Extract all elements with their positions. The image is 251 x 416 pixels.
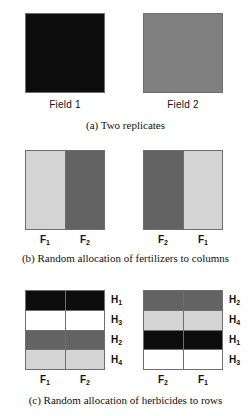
panel-c-field-2-row-1 [144, 291, 222, 310]
panel-b-field-2-col-2-label: F1 [183, 235, 223, 245]
panel-c-field-2-row-3 [144, 330, 222, 350]
grid-cell [144, 350, 183, 369]
panel-c-field-1-row-1-label: H1 [111, 290, 137, 310]
panel-c-field-1-row-3 [26, 330, 104, 350]
panel-c-field-2-row-4-label: H3 [229, 350, 251, 370]
grid-cell [65, 350, 105, 369]
panel-b-caption: (b) Random allocation of fertilizers to … [0, 252, 251, 264]
herbicide-letter: H [111, 315, 118, 325]
grid-cell [26, 350, 65, 369]
panel-c-caption: (c) Random allocation of herbicides to r… [0, 394, 251, 406]
herbicide-letter: H [229, 335, 236, 345]
panel-c-field-2-col-labels: F2 F1 [143, 375, 223, 385]
herbicide-letter: H [111, 335, 118, 345]
figure-randomization-diagram: Field 1 Field 2 (a) Two replicates F1 [0, 0, 251, 416]
panel-b-field-2-col-labels: F2 F1 [143, 235, 223, 245]
panel-a-field-2-plot [143, 13, 223, 93]
panel-c-field-1-row-4 [26, 349, 104, 369]
panel-c-field-2-row-2-label: H4 [229, 310, 251, 330]
panel-b-field-1-plot [25, 150, 105, 230]
herbicide-letter: H [229, 355, 236, 365]
grid-cell [26, 311, 65, 330]
fertilizer-subscript: 2 [86, 239, 90, 246]
panel-b-field-1-col-1 [26, 151, 65, 229]
fertilizer-subscript: 1 [46, 239, 50, 246]
panel-c-field-2-wrap: H2 H4 H1 H3 F2 [143, 290, 223, 385]
panel-b-field-2-wrap: F2 F1 [143, 150, 223, 245]
panel-c-herbicide-allocation: H1 H3 H2 H4 F1 [0, 290, 251, 406]
grid-cell [144, 291, 183, 310]
panel-c-field-1-row-4-label: H4 [111, 350, 137, 370]
panel-a-field-2-label: Field 2 [143, 99, 223, 110]
grid-cell [183, 350, 223, 369]
fertilizer-subscript: 1 [204, 239, 208, 246]
panel-c-field-1-row-2-label: H3 [111, 310, 137, 330]
panel-b-fertilizer-allocation: F1 F2 F2 F1 [0, 150, 251, 264]
panel-b-field-1-col-2-label: F2 [65, 235, 105, 245]
panel-b-field-2-col-1 [144, 151, 183, 229]
panel-b-field-1-wrap: F1 F2 [25, 150, 105, 245]
panel-c-field-1-wrap: H1 H3 H2 H4 F1 [25, 290, 105, 385]
panel-c-field-2-col-1-label: F2 [143, 375, 183, 385]
panel-c-field-1-row-2 [26, 310, 104, 330]
panel-c-field-1-col-labels: F1 F2 [25, 375, 105, 385]
grid-cell [144, 331, 183, 350]
panel-c-field-2-col-2-label: F1 [183, 375, 223, 385]
panel-a-caption: (a) Two replicates [0, 119, 251, 131]
panel-c-field-1-row-1 [26, 291, 104, 310]
herbicide-subscript: 3 [118, 319, 122, 326]
grid-cell [26, 291, 65, 310]
herbicide-subscript: 4 [236, 319, 240, 326]
fertilizer-subscript: 1 [204, 379, 208, 386]
panel-a-field-1-wrap: Field 1 [25, 13, 105, 110]
herbicide-letter: H [111, 295, 118, 305]
panel-c-field-2-row-2 [144, 310, 222, 330]
herbicide-subscript: 1 [118, 299, 122, 306]
herbicide-subscript: 3 [236, 359, 240, 366]
fertilizer-subscript: 2 [164, 379, 168, 386]
fertilizer-subscript: 2 [86, 379, 90, 386]
panel-c-field-1-row-3-label: H2 [111, 330, 137, 350]
panel-b-field-2-col-1-label: F2 [143, 235, 183, 245]
panel-c-field-2-row-4 [144, 349, 222, 369]
panel-a-two-replicates: Field 1 Field 2 (a) Two replicates [0, 13, 251, 131]
herbicide-letter: H [229, 315, 236, 325]
panel-c-field-2-row-labels: H2 H4 H1 H3 [229, 290, 251, 370]
panel-c-plots-row: H1 H3 H2 H4 F1 [0, 290, 251, 389]
panel-a-field-2-wrap: Field 2 [143, 13, 223, 110]
grid-cell [26, 331, 65, 350]
herbicide-letter: H [111, 355, 118, 365]
panel-c-field-1-plot [25, 290, 105, 370]
grid-cell [183, 331, 223, 350]
grid-cell [183, 311, 223, 330]
panel-c-field-2-row-1-label: H2 [229, 290, 251, 310]
grid-cell [65, 311, 105, 330]
panel-b-plots-row: F1 F2 F2 F1 [0, 150, 251, 249]
grid-cell [65, 331, 105, 350]
herbicide-subscript: 1 [236, 339, 240, 346]
panel-c-field-2-plot [143, 290, 223, 370]
grid-cell [144, 311, 183, 330]
herbicide-subscript: 2 [236, 299, 240, 306]
herbicide-subscript: 4 [118, 359, 122, 366]
herbicide-subscript: 2 [118, 339, 122, 346]
panel-b-field-2-plot [143, 150, 223, 230]
panel-b-field-1-col-labels: F1 F2 [25, 235, 105, 245]
panel-b-field-1-col-1-label: F1 [25, 235, 65, 245]
panel-a-field-1-plot [25, 13, 105, 93]
panel-b-field-1-col-2 [65, 151, 105, 229]
fertilizer-subscript: 2 [164, 239, 168, 246]
herbicide-letter: H [229, 295, 236, 305]
panel-a-plots-row: Field 1 Field 2 [0, 13, 251, 113]
panel-b-field-2-col-2 [183, 151, 223, 229]
grid-cell [183, 291, 223, 310]
panel-c-field-1-col-2-label: F2 [65, 375, 105, 385]
panel-c-field-1-col-1-label: F1 [25, 375, 65, 385]
fertilizer-subscript: 1 [46, 379, 50, 386]
grid-cell [65, 291, 105, 310]
panel-a-field-1-label: Field 1 [25, 99, 105, 110]
panel-c-field-1-row-labels: H1 H3 H2 H4 [111, 290, 137, 370]
panel-c-field-2-row-3-label: H1 [229, 330, 251, 350]
